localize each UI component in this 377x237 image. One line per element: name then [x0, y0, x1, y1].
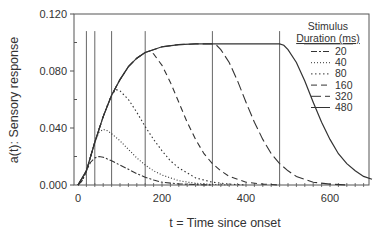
y-tick-label: 0.000	[39, 179, 67, 191]
series-line-80	[78, 90, 246, 186]
y-axis: 0.0000.0400.0800.120	[39, 8, 77, 191]
y-axis-title: a(t): Sensory response	[7, 37, 21, 163]
series-line-480	[78, 44, 372, 185]
x-tick-label: 600	[321, 192, 339, 204]
y-tick-label: 0.040	[39, 122, 67, 134]
x-axis: 0200400600	[75, 183, 364, 204]
y-tick-label: 0.120	[39, 8, 67, 20]
data-series	[78, 44, 372, 185]
sensory-response-chart: 0.0000.0400.0800.120 0200400600 t = Time…	[0, 0, 377, 237]
x-tick-label: 400	[237, 192, 255, 204]
legend-label: 480	[335, 101, 353, 113]
x-tick-label: 0	[75, 192, 81, 204]
legend-entries: 204080160320480	[311, 45, 353, 113]
legend: Stimulus Duration (ms) 204080160320480	[296, 20, 360, 113]
series-line-160	[78, 51, 280, 185]
legend-label: 320	[335, 90, 353, 102]
legend-label: 160	[335, 79, 353, 91]
y-tick-label: 0.080	[39, 65, 67, 77]
stimulus-offset-markers	[86, 31, 279, 185]
legend-label: 80	[335, 67, 347, 79]
legend-subtitle: Duration (ms)	[296, 32, 360, 44]
x-tick-label: 200	[153, 192, 171, 204]
legend-title: Stimulus	[308, 20, 348, 32]
legend-label: 20	[335, 45, 347, 57]
x-axis-title: t = Time since onset	[169, 216, 281, 230]
legend-label: 40	[335, 56, 347, 68]
